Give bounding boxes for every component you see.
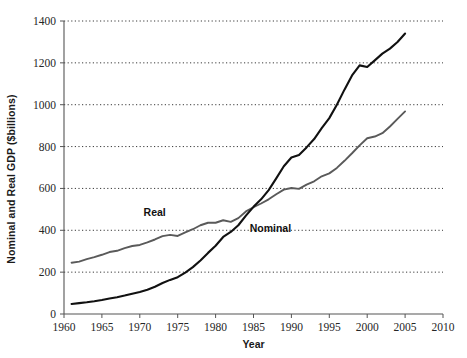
- gdp-line-chart: Nominal and Real GDP ($billions) Year 02…: [0, 0, 467, 358]
- series-label-nominal: Nominal: [250, 222, 292, 234]
- x-tick-label: 2000: [356, 321, 379, 333]
- y-tick-label: 400: [39, 224, 57, 236]
- x-tick-label: 1970: [128, 321, 151, 333]
- x-tick-label: 1975: [166, 321, 189, 333]
- y-tick-label: 1000: [33, 99, 56, 111]
- x-tick-label: 1985: [242, 321, 265, 333]
- y-tick-label: 600: [39, 182, 57, 194]
- y-tick-label: 200: [39, 266, 57, 278]
- x-tick-label: 1980: [204, 321, 227, 333]
- y-tick-label: 800: [39, 141, 57, 153]
- y-tick-label: 0: [50, 308, 56, 320]
- series-lines: [72, 34, 406, 304]
- gridlines: [60, 21, 443, 314]
- plot-area: 0200400600800100012001400 19601965197019…: [0, 0, 467, 358]
- y-tick-label: 1400: [33, 15, 56, 27]
- tick-marks: [64, 314, 443, 318]
- x-tick-labels: 1960196519701975198019851990199520002005…: [53, 321, 455, 333]
- x-tick-label: 2010: [432, 321, 455, 333]
- x-tick-label: 2005: [394, 321, 417, 333]
- x-tick-label: 1960: [53, 321, 76, 333]
- series-line-real: [72, 111, 406, 262]
- x-tick-label: 1990: [280, 321, 303, 333]
- x-tick-label: 1995: [318, 321, 341, 333]
- series-label-real: Real: [144, 206, 166, 218]
- series-line-nominal: [72, 34, 406, 304]
- y-tick-labels: 0200400600800100012001400: [33, 15, 56, 320]
- y-tick-label: 1200: [33, 57, 56, 69]
- x-tick-label: 1965: [90, 321, 113, 333]
